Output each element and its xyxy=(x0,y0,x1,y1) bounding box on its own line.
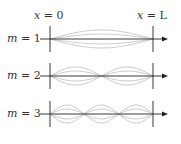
wave-curves xyxy=(50,30,153,123)
wave-curve xyxy=(50,30,153,39)
arrowhead-icon xyxy=(162,112,168,117)
wave-curve xyxy=(50,39,153,48)
standing-waves-figure xyxy=(0,0,181,144)
arrowheads xyxy=(162,37,168,117)
arrowhead-icon xyxy=(162,37,168,42)
arrowhead-icon xyxy=(162,74,168,79)
